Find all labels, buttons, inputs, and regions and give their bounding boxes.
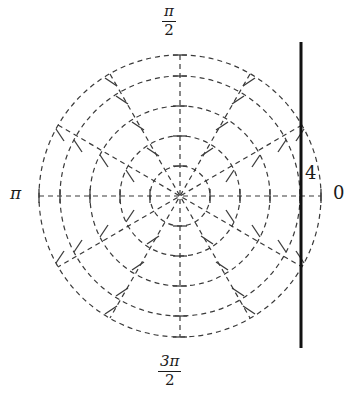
axis-label-theta-half-pi: π 2 bbox=[162, 4, 176, 39]
polar-plot-figure bbox=[0, 0, 352, 402]
theta-three-half-pi-numerator: 3π bbox=[158, 354, 181, 370]
axis-label-theta-pi: π bbox=[10, 185, 21, 202]
theta-half-pi-denominator: 2 bbox=[162, 23, 176, 39]
theta-half-pi-numerator: π bbox=[162, 4, 176, 20]
theta-three-half-pi-denominator: 2 bbox=[158, 373, 181, 389]
plot-background bbox=[0, 0, 352, 402]
radial-tick-label-4: 4 bbox=[305, 164, 316, 182]
axis-label-theta-three-half-pi: 3π 2 bbox=[158, 354, 181, 389]
axis-label-theta-zero: 0 bbox=[333, 184, 344, 202]
